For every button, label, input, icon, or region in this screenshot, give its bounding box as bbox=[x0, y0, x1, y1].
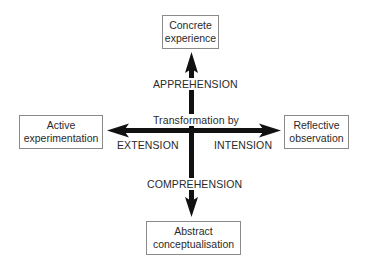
label-apprehension: APPREHENSION bbox=[152, 78, 239, 90]
node-active-experimentation: Active experimentation bbox=[19, 115, 103, 149]
label-transformation-by: Transformation by bbox=[152, 114, 240, 126]
label-intension: INTENSION bbox=[214, 139, 272, 151]
horizontal-arrow-shaft bbox=[122, 128, 266, 133]
label-extension: EXTENSION bbox=[117, 139, 179, 151]
node-abstract-conceptualisation: Abstract conceptualisation bbox=[146, 221, 241, 255]
node-reflective-observation: Reflective observation bbox=[284, 115, 349, 149]
diagram-canvas: Concrete experience Active experimentati… bbox=[0, 0, 365, 265]
node-concrete-experience: Concrete experience bbox=[162, 15, 219, 49]
label-comprehension: COMPREHENSION bbox=[146, 178, 243, 190]
